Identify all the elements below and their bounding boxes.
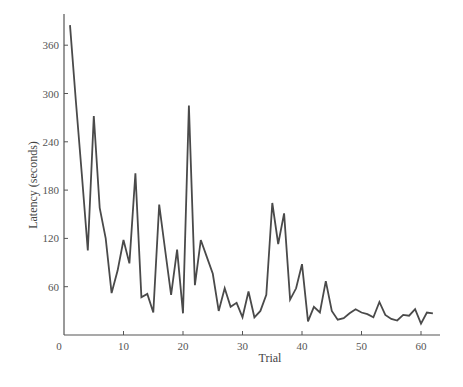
axes <box>64 14 440 335</box>
y-axis-label: Latency (seconds) <box>26 141 40 229</box>
y-tick-label: 360 <box>43 39 60 51</box>
y-tick-label: 120 <box>43 232 60 244</box>
x-tick-label: 60 <box>416 340 428 352</box>
latency-line-chart: 60120180240300360 0102030405060 Latency … <box>0 0 463 387</box>
x-ticks: 0102030405060 <box>56 331 427 352</box>
x-tick-label: 0 <box>56 340 62 352</box>
x-axis-label: Trial <box>259 351 283 365</box>
y-tick-label: 180 <box>43 184 60 196</box>
y-tick-label: 60 <box>48 281 60 293</box>
x-tick-label: 30 <box>237 340 249 352</box>
x-tick-label: 10 <box>118 340 130 352</box>
latency-series-line <box>70 25 433 324</box>
x-tick-label: 20 <box>178 340 190 352</box>
x-tick-label: 40 <box>297 340 309 352</box>
x-tick-label: 50 <box>356 340 368 352</box>
y-tick-label: 300 <box>43 88 60 100</box>
y-tick-label: 240 <box>43 136 60 148</box>
